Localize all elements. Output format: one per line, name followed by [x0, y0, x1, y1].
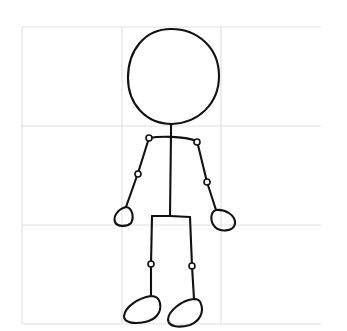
right-elbow-joint [204, 179, 210, 185]
right-shoulder-joint [194, 139, 200, 145]
right-leg [190, 217, 194, 299]
left-hand [115, 207, 133, 226]
left-leg [151, 216, 152, 296]
right-hand [211, 210, 235, 231]
left-shoulder-joint [146, 135, 152, 141]
stick-figure [115, 29, 236, 327]
left-knee-joint [148, 261, 154, 267]
stick-figure-drawing [0, 0, 347, 331]
left-elbow-joint [135, 171, 141, 177]
right-foot [168, 299, 202, 327]
hips [152, 216, 190, 217]
right-arm [197, 141, 216, 210]
right-knee-joint [189, 263, 195, 269]
shoulders [149, 137, 197, 141]
head [128, 29, 219, 124]
left-foot [124, 296, 160, 323]
